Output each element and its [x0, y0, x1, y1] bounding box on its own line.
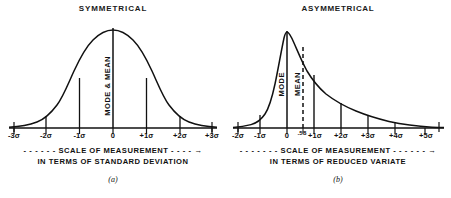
panel-symmetrical: SYMMETRICAL MODE & MEAN	[0, 0, 226, 198]
tick-label-minus-1-sigma: -1σ	[73, 131, 85, 140]
tick-label-plus-3-sigma: +3σ	[361, 131, 375, 140]
tick-label-plus-1-sigma: +1σ	[308, 131, 322, 140]
scale-arrow-icon: →	[428, 146, 436, 155]
scale-arrow-icon: →	[194, 146, 202, 155]
figure-container: SYMMETRICAL MODE & MEAN	[0, 0, 451, 198]
tick-label-plus-1-sigma: +1σ	[140, 131, 154, 140]
scale-of-measurement-line: - - - - - - SCALE OF MEASUREMENT - - - -…	[0, 146, 226, 155]
scale-text-line2: IN TERMS OF STANDARD DEVIATION	[0, 157, 226, 166]
tick-label-plus-4-sigma: +4σ	[389, 131, 403, 140]
tick-label-minus-3-sigma: -3σ	[8, 131, 20, 140]
mode-label: MODE	[277, 72, 286, 97]
tick-label-point-58: .58	[298, 129, 307, 136]
scale-text-line1: SCALE OF MEASUREMENT	[58, 146, 168, 155]
panel-b-title: ASYMMETRICAL	[225, 4, 451, 13]
panel-a-plot	[0, 18, 226, 136]
panel-b-caption: (b)	[225, 175, 451, 184]
mode-and-mean-label: MODE & MEAN	[103, 56, 112, 116]
gumbel-curve	[233, 32, 444, 128]
tick-label-plus-2-sigma: +2σ	[173, 131, 187, 140]
tick-label-plus-3-sigma: +3σ	[205, 131, 219, 140]
scale-of-measurement-line: - - - - - - - SCALE OF MEASUREMENT - - -…	[225, 146, 451, 155]
mean-label: MEAN	[293, 72, 302, 96]
panel-a-title: SYMMETRICAL	[0, 4, 226, 13]
tick-label-minus-2-sigma: -2σ	[40, 131, 52, 140]
tick-label-plus-2-sigma: +2σ	[334, 131, 348, 140]
scale-dashes-left: - - - - - -	[24, 146, 56, 155]
tick-label-minus-1-sigma: -1σ	[254, 131, 266, 140]
panel-asymmetrical: ASYMMETRICAL	[225, 0, 451, 198]
panel-a-caption: (a)	[0, 175, 226, 184]
scale-text-line1: SCALE OF MEASUREMENT	[281, 146, 391, 155]
tick-label-zero: 0	[285, 131, 289, 140]
tick-label-zero: 0	[111, 131, 115, 140]
scale-dashes-right: - - - - - -	[393, 146, 425, 155]
scale-dashes-left: - - - - - - -	[240, 146, 278, 155]
tick-label-minus-2-sigma: -2σ	[232, 131, 244, 140]
panel-b-plot	[225, 18, 451, 136]
tick-label-plus-5-sigma: +5σ	[419, 131, 433, 140]
scale-text-line2: IN TERMS OF REDUCED VARIATE	[225, 157, 451, 166]
scale-dashes-right: - - - -	[171, 146, 192, 155]
